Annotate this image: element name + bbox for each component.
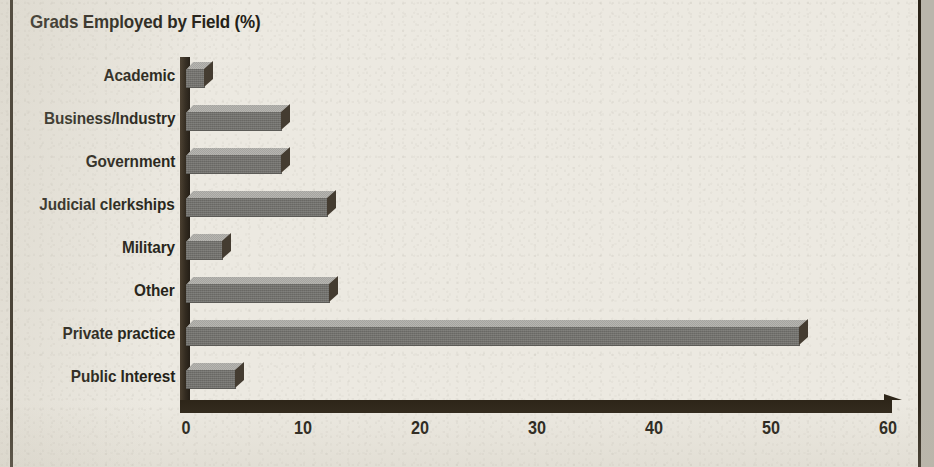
bar-front-face: [186, 327, 800, 346]
category-label: Other: [135, 281, 175, 300]
bar-front-face: [186, 284, 330, 303]
category-label: Business/Industry: [44, 109, 175, 128]
chart-page: Grads Employed by Field (%) AcademicBusi…: [0, 0, 934, 467]
category-label: Public Interest: [71, 367, 175, 386]
bar: [186, 191, 328, 216]
bar-front-face: [186, 155, 282, 174]
bar-front-face: [186, 370, 236, 389]
bar: [186, 277, 330, 302]
category-label: Military: [122, 238, 175, 257]
x-tick-label: 20: [411, 418, 429, 439]
x-tick-label: 60: [879, 418, 897, 439]
bar: [186, 62, 205, 87]
x-tick-label: 50: [762, 418, 780, 439]
category-label: Private practice: [62, 324, 175, 343]
category-label: Academic: [103, 66, 175, 85]
bar-front-face: [186, 69, 205, 88]
x-tick-label: 40: [645, 418, 663, 439]
x-tick-label: 30: [528, 418, 546, 439]
bar-front-face: [186, 112, 282, 131]
x-tick-label: 0: [181, 418, 190, 439]
x-tick-label: 10: [294, 418, 312, 439]
category-label: Government: [86, 152, 175, 171]
bar: [186, 105, 282, 130]
x-axis-arrow-icon: [884, 394, 902, 400]
category-label: Judicial clerkships: [39, 195, 175, 214]
bar-front-face: [186, 198, 328, 217]
bar: [186, 234, 223, 259]
bar: [186, 363, 236, 388]
x-axis: [180, 400, 892, 413]
bar-front-face: [186, 241, 223, 260]
bar: [186, 148, 282, 173]
bar: [186, 320, 800, 345]
